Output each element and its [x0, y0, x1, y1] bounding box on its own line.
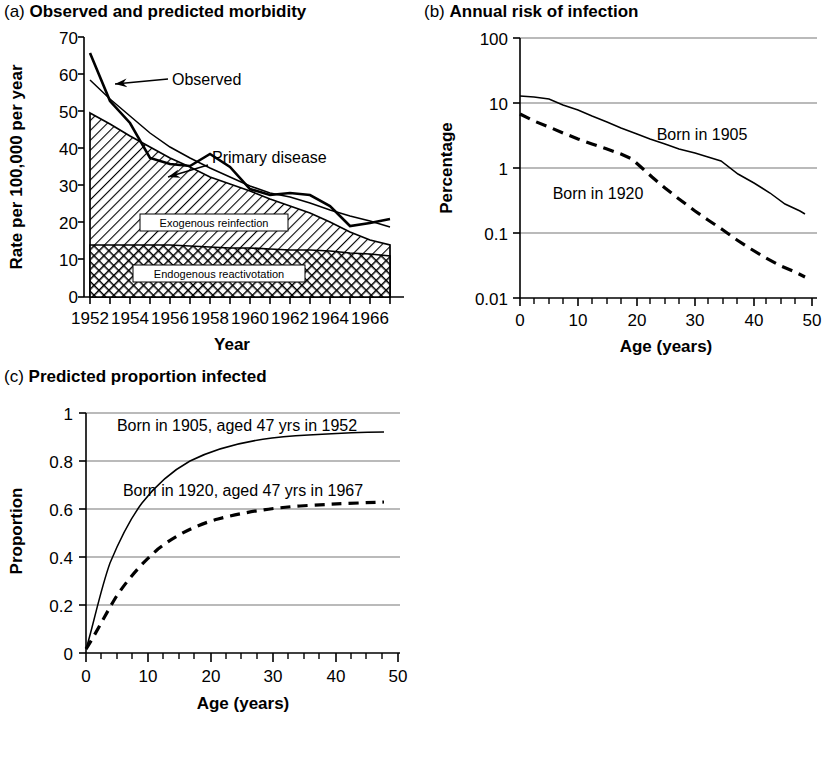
- panel-a-title-text: Observed and predicted morbidity: [30, 2, 307, 21]
- panel-b-x-minor-ticks: [534, 298, 795, 304]
- x-tick-1956: 1956: [151, 309, 189, 328]
- y-tick-1: 1: [64, 405, 73, 424]
- panel-b-x-axis-title: Age (years): [620, 337, 713, 356]
- panel-a-x-ticklabels: 1952 1954 1956 1958 1960 1962 1964 1966: [71, 309, 389, 328]
- x-tick-10: 10: [569, 311, 588, 330]
- x-tick-20: 20: [202, 667, 221, 686]
- y-tick-1: 1: [499, 160, 508, 179]
- x-tick-50: 50: [803, 311, 822, 330]
- panel-b-y-ticklabels: 100 10 1 0.1 0.01: [475, 30, 508, 309]
- curve-born-1905: [86, 432, 384, 649]
- x-tick-1954: 1954: [111, 309, 149, 328]
- y-tick-20: 20: [59, 214, 78, 233]
- panel-b-svg: 100 10 1 0.1 0.01: [420, 22, 830, 365]
- x-tick-20: 20: [628, 311, 647, 330]
- x-tick-1966: 1966: [351, 309, 389, 328]
- x-tick-40: 40: [745, 311, 764, 330]
- panel-b-tag: (b): [424, 2, 450, 21]
- label-exogenous-reinfection-text: Exogenous reinfection: [160, 217, 269, 229]
- panel-a-title: (a) Observed and predicted morbidity: [4, 2, 306, 22]
- curve-born-1920: [86, 502, 384, 649]
- panel-b-y-ticks: [513, 38, 520, 298]
- x-tick-40: 40: [327, 667, 346, 686]
- panel-a-plot: 70 60 50 40 30 20 10 0: [0, 22, 420, 365]
- annotation-born-1905-aged: Born in 1905, aged 47 yrs in 1952: [117, 417, 357, 434]
- panel-c-y-ticks: [79, 413, 86, 653]
- panel-c-y-ticklabels: 1 0.8 0.6 0.4 0.2 0: [49, 405, 73, 664]
- panel-b-y-axis-title: Percentage: [437, 122, 456, 214]
- x-tick-1952: 1952: [71, 309, 109, 328]
- x-tick-30: 30: [686, 311, 705, 330]
- y-tick-70: 70: [59, 29, 78, 48]
- y-tick-0-4: 0.4: [49, 549, 73, 568]
- panel-a-observed-predicted-morbidity: (a) Observed and predicted morbidity: [0, 0, 420, 365]
- y-tick-40: 40: [59, 140, 78, 159]
- y-tick-0-6: 0.6: [49, 501, 73, 520]
- y-tick-0-2: 0.2: [49, 597, 73, 616]
- panel-a-x-ticks: [90, 297, 390, 304]
- panel-c-predicted-proportion-infected: (c) Predicted proportion infected: [0, 365, 560, 761]
- y-tick-50: 50: [59, 103, 78, 122]
- annotation-born-1920: Born in 1920: [553, 185, 644, 202]
- annotation-observed: Observed: [172, 71, 241, 88]
- panel-c-plot: 1 0.8 0.6 0.4 0.2 0: [0, 391, 560, 761]
- x-tick-30: 30: [264, 667, 283, 686]
- y-tick-0-1: 0.1: [484, 225, 508, 244]
- panel-c-tag: (c): [4, 367, 29, 386]
- x-tick-0: 0: [81, 667, 90, 686]
- annotation-born-1920-aged: Born in 1920, aged 47 yrs in 1967: [123, 482, 363, 499]
- x-tick-1964: 1964: [311, 309, 349, 328]
- x-tick-0: 0: [515, 311, 524, 330]
- panel-c-x-axis-title: Age (years): [197, 694, 290, 713]
- panel-c-x-minor-ticks: [101, 653, 382, 659]
- panel-a-y-ticks: [78, 37, 84, 297]
- label-endogenous-reactivotation-text: Endogenous reactivotation: [154, 268, 284, 280]
- y-tick-30: 30: [59, 177, 78, 196]
- panel-a-tag: (a): [4, 2, 30, 21]
- y-tick-0: 0: [64, 645, 73, 664]
- label-endogenous-reactivotation: Endogenous reactivotation: [133, 265, 305, 282]
- panel-c-title: (c) Predicted proportion infected: [4, 367, 267, 387]
- x-tick-50: 50: [389, 667, 408, 686]
- x-tick-1962: 1962: [271, 309, 309, 328]
- y-tick-10: 10: [489, 95, 508, 114]
- y-tick-0: 0: [69, 288, 78, 307]
- annotation-born-1905: Born in 1905: [657, 126, 748, 143]
- panel-b-x-major-ticks: [520, 298, 812, 306]
- panel-b-title-text: Annual risk of infection: [450, 2, 639, 21]
- panel-c-y-axis-title: Proportion: [7, 488, 26, 575]
- panel-a-x-axis-title: Year: [214, 335, 250, 354]
- panel-c-svg: 1 0.8 0.6 0.4 0.2 0: [0, 391, 560, 761]
- panel-b-title: (b) Annual risk of infection: [424, 2, 638, 22]
- y-tick-10: 10: [59, 251, 78, 270]
- panel-a-y-axis-title: Rate per 100,000 per year: [7, 64, 26, 269]
- panel-a-y-ticklabels: 70 60 50 40 30 20 10 0: [59, 29, 78, 307]
- panel-b-annual-risk-of-infection: (b) Annual risk of infection: [420, 0, 830, 365]
- observed-leader-line: [115, 79, 168, 84]
- annotation-primary-disease: Primary disease: [212, 149, 327, 166]
- y-tick-100: 100: [480, 30, 508, 49]
- y-tick-60: 60: [59, 66, 78, 85]
- x-tick-1958: 1958: [191, 309, 229, 328]
- x-tick-10: 10: [139, 667, 158, 686]
- panel-a-svg: 70 60 50 40 30 20 10 0: [0, 22, 420, 365]
- panel-c-title-text: Predicted proportion infected: [29, 367, 267, 386]
- y-tick-0-01: 0.01: [475, 290, 508, 309]
- panel-b-plot: 100 10 1 0.1 0.01: [420, 22, 830, 365]
- y-tick-0-8: 0.8: [49, 453, 73, 472]
- x-tick-1960: 1960: [231, 309, 269, 328]
- panel-c-x-ticklabels: 0 10 20 30 40 50: [81, 667, 407, 686]
- panel-b-x-ticklabels: 0 10 20 30 40 50: [515, 311, 821, 330]
- label-exogenous-reinfection: Exogenous reinfection: [140, 214, 288, 231]
